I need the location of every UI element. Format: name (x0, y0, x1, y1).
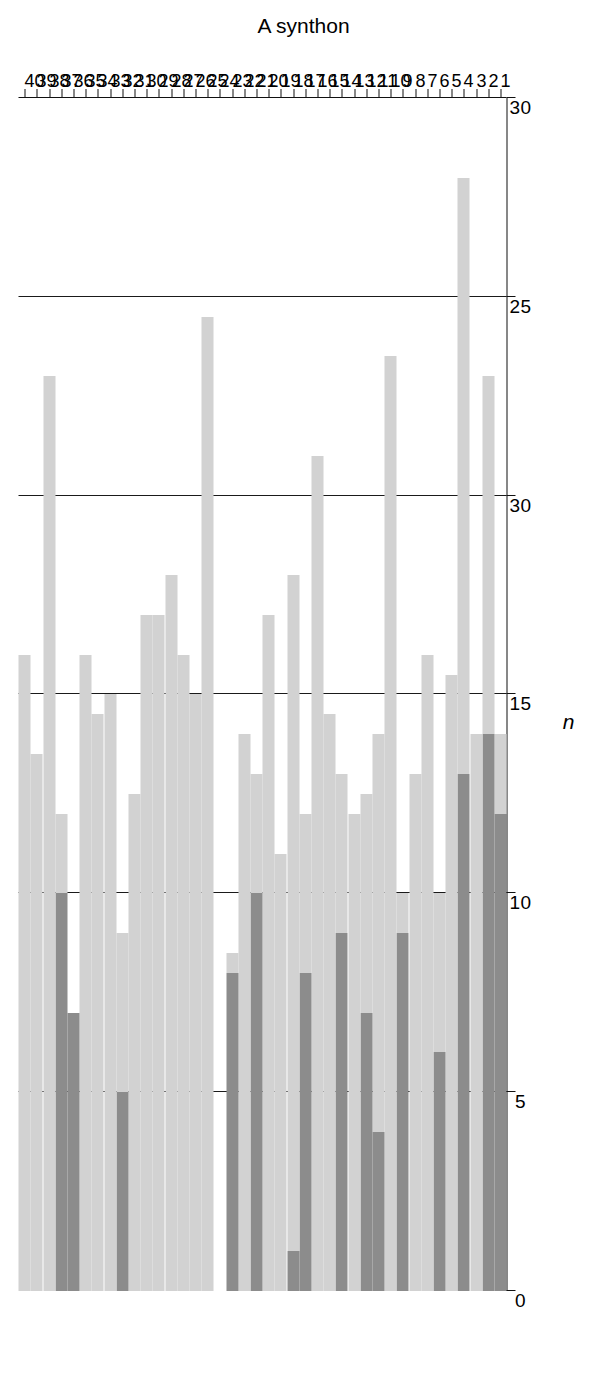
bar-segment-dark (494, 814, 506, 1291)
bar-category-36 (67, 1013, 79, 1291)
bar-segment-light (311, 456, 323, 1291)
value-tick-label-5: 5 (514, 1092, 525, 1111)
bar-category-30 (140, 615, 152, 1291)
bar-segment-light (494, 734, 506, 814)
bar-segment-light (482, 376, 494, 734)
bar-segment-light (287, 575, 299, 1251)
bar-segment-light (262, 615, 274, 1291)
bar-segment-light (470, 734, 482, 1291)
category-tick-label-7: 7 (427, 72, 437, 90)
value-tick-label-25: 25 (509, 297, 531, 316)
bar-category-21 (250, 774, 262, 1291)
value-tick-5 (506, 1091, 515, 1092)
bar-category-6 (433, 893, 445, 1291)
category-tick-label-2: 2 (488, 72, 498, 90)
bar-category-39 (30, 754, 42, 1291)
bar-segment-light (91, 714, 103, 1291)
bar-category-2 (482, 376, 494, 1291)
bar-segment-light (18, 655, 30, 1291)
gridline-25 (18, 296, 506, 297)
chart-canvas: n A synthon 0510153025301234567891011121… (0, 0, 605, 1378)
bar-segment-dark (372, 1132, 384, 1291)
category-tick-label-6: 6 (439, 72, 449, 90)
bar-category-4 (457, 178, 469, 1291)
bar-category-7 (421, 655, 433, 1291)
bar-segment-light (238, 734, 250, 1291)
bar-segment-light (189, 695, 201, 1292)
bar-segment-dark (457, 774, 469, 1291)
bar-segment-light (152, 615, 164, 1291)
bar-segment-dark (226, 973, 238, 1291)
bar-segment-light (348, 814, 360, 1291)
bar-segment-light (177, 655, 189, 1291)
bar-category-11 (372, 734, 384, 1291)
bar-segment-light (43, 376, 55, 1291)
bar-category-22 (238, 734, 250, 1291)
bar-segment-light (360, 794, 372, 1013)
bar-segment-light (396, 893, 408, 933)
bar-category-40 (18, 655, 30, 1291)
bar-category-26 (189, 695, 201, 1292)
bar-segment-light (116, 933, 128, 1092)
bar-segment-light (140, 615, 152, 1291)
value-tick-label-20: 30 (509, 496, 531, 515)
bar-segment-light (250, 774, 262, 893)
bar-segment-light (79, 655, 91, 1291)
bar-segment-light (201, 317, 213, 1291)
bar-segment-light (104, 695, 116, 1292)
bar-category-28 (165, 575, 177, 1291)
bar-category-31 (128, 794, 140, 1291)
category-tick-label-5: 5 (451, 72, 461, 90)
bar-segment-light (457, 178, 469, 775)
bar-category-18 (287, 575, 299, 1291)
category-tick-label-1: 1 (500, 72, 510, 90)
bar-category-15 (323, 714, 335, 1291)
value-tick-label-0: 0 (514, 1291, 525, 1310)
value-axis-title: n (562, 710, 574, 734)
value-tick-label-15: 15 (509, 695, 531, 714)
bar-segment-dark (299, 973, 311, 1291)
bar-segment-light (30, 754, 42, 1291)
bar-segment-dark (360, 1013, 372, 1291)
bar-category-17 (299, 814, 311, 1291)
bar-category-19 (274, 854, 286, 1291)
bar-category-16 (311, 456, 323, 1291)
bar-category-25 (201, 317, 213, 1291)
bar-category-5 (445, 675, 457, 1291)
category-tick-label-8: 8 (415, 72, 425, 90)
bar-segment-light (165, 575, 177, 1291)
bar-segment-light (226, 953, 238, 973)
gridline-30 (18, 97, 506, 98)
bar-category-32 (116, 933, 128, 1291)
bar-category-9 (396, 893, 408, 1291)
figure: n A synthon 0510153025301234567891011121… (0, 0, 605, 1378)
value-tick-label-10: 10 (509, 893, 531, 912)
category-tick-label-4: 4 (463, 72, 473, 90)
bar-category-12 (360, 794, 372, 1291)
bar-segment-dark (67, 1013, 79, 1291)
bar-segment-light (372, 734, 384, 1132)
bar-segment-light (299, 814, 311, 973)
bar-category-38 (43, 376, 55, 1291)
bar-segment-dark (396, 933, 408, 1291)
value-tick-label-30: 30 (509, 98, 531, 117)
bar-segment-dark (250, 893, 262, 1291)
bar-segment-light (433, 893, 445, 1052)
bar-category-20 (262, 615, 274, 1291)
bar-category-13 (348, 814, 360, 1291)
bar-category-27 (177, 655, 189, 1291)
bar-category-8 (409, 774, 421, 1291)
bar-category-23 (226, 953, 238, 1291)
bar-segment-dark (433, 1052, 445, 1291)
category-tick-label-40: 40 (24, 72, 44, 90)
bar-category-3 (470, 734, 482, 1291)
category-tick-label-3: 3 (476, 72, 486, 90)
bar-category-1 (494, 734, 506, 1291)
bar-segment-dark (116, 1092, 128, 1291)
bar-category-34 (91, 714, 103, 1291)
bar-segment-light (421, 655, 433, 1291)
bar-segment-dark (482, 734, 494, 1291)
bar-category-33 (104, 695, 116, 1292)
bar-category-35 (79, 655, 91, 1291)
bar-segment-light (274, 854, 286, 1291)
